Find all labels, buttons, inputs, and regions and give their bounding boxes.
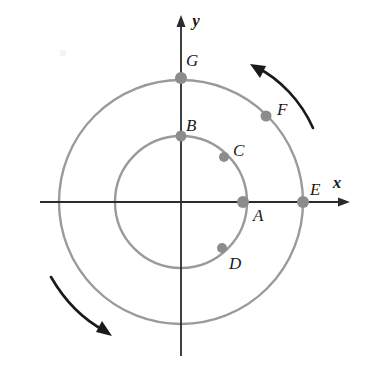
point-label-D: D [228,254,242,273]
point-B [176,131,187,142]
point-label-A: A [252,206,264,225]
point-label-E: E [309,180,321,199]
y-axis-label: y [190,11,200,30]
x-axis-label: x [332,173,342,192]
point-C [219,152,229,162]
point-A [237,196,249,208]
point-G [175,72,187,84]
point-E [297,196,309,208]
point-label-G: G [186,51,198,70]
point-label-B: B [186,116,197,135]
point-D [217,243,227,253]
point-label-C: C [233,141,245,160]
point-label-F: F [276,100,288,119]
point-F [261,111,272,122]
concentric-circles-diagram: x y A B C D E F G [0,0,373,379]
scan-artifact-mark [60,50,66,56]
